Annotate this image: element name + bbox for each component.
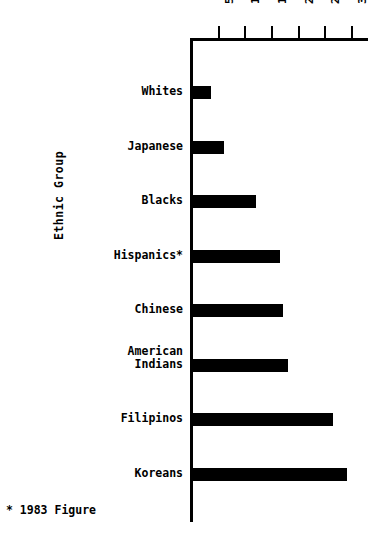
category-label: American Indians [33, 345, 183, 371]
bar [192, 468, 347, 481]
bar [192, 195, 256, 208]
x-axis-tick-label: 15 [277, 0, 288, 4]
bar-chart: 51015202530 WhitesJapaneseBlacksHispanic… [0, 0, 383, 538]
bar [192, 86, 211, 99]
y-axis-title: Ethnic Group [52, 151, 66, 240]
bar [192, 413, 333, 426]
x-axis-tick-label: 30 [357, 0, 368, 4]
category-label: Chinese [33, 303, 183, 316]
category-label: Hispanics* [33, 249, 183, 262]
x-axis-tick [298, 26, 300, 38]
x-axis-tick [244, 26, 246, 38]
bar [192, 359, 288, 372]
category-label: Whites [33, 85, 183, 98]
x-axis-tick-label: 10 [250, 0, 261, 4]
x-axis-tick [351, 26, 353, 38]
bar [192, 250, 280, 263]
bar [192, 141, 224, 154]
x-axis-tick [324, 26, 326, 38]
x-axis-line [190, 38, 368, 41]
x-axis-tick [218, 26, 220, 38]
category-label: Koreans [33, 467, 183, 480]
footnote: * 1983 Figure [6, 503, 96, 517]
y-axis-line [190, 38, 193, 522]
bar [192, 304, 283, 317]
x-axis-tick-label: 20 [304, 0, 315, 4]
x-axis-tick-label: 25 [330, 0, 341, 4]
category-label: Filipinos [33, 412, 183, 425]
x-axis-tick-label: 5 [224, 0, 235, 4]
x-axis-tick [271, 26, 273, 38]
